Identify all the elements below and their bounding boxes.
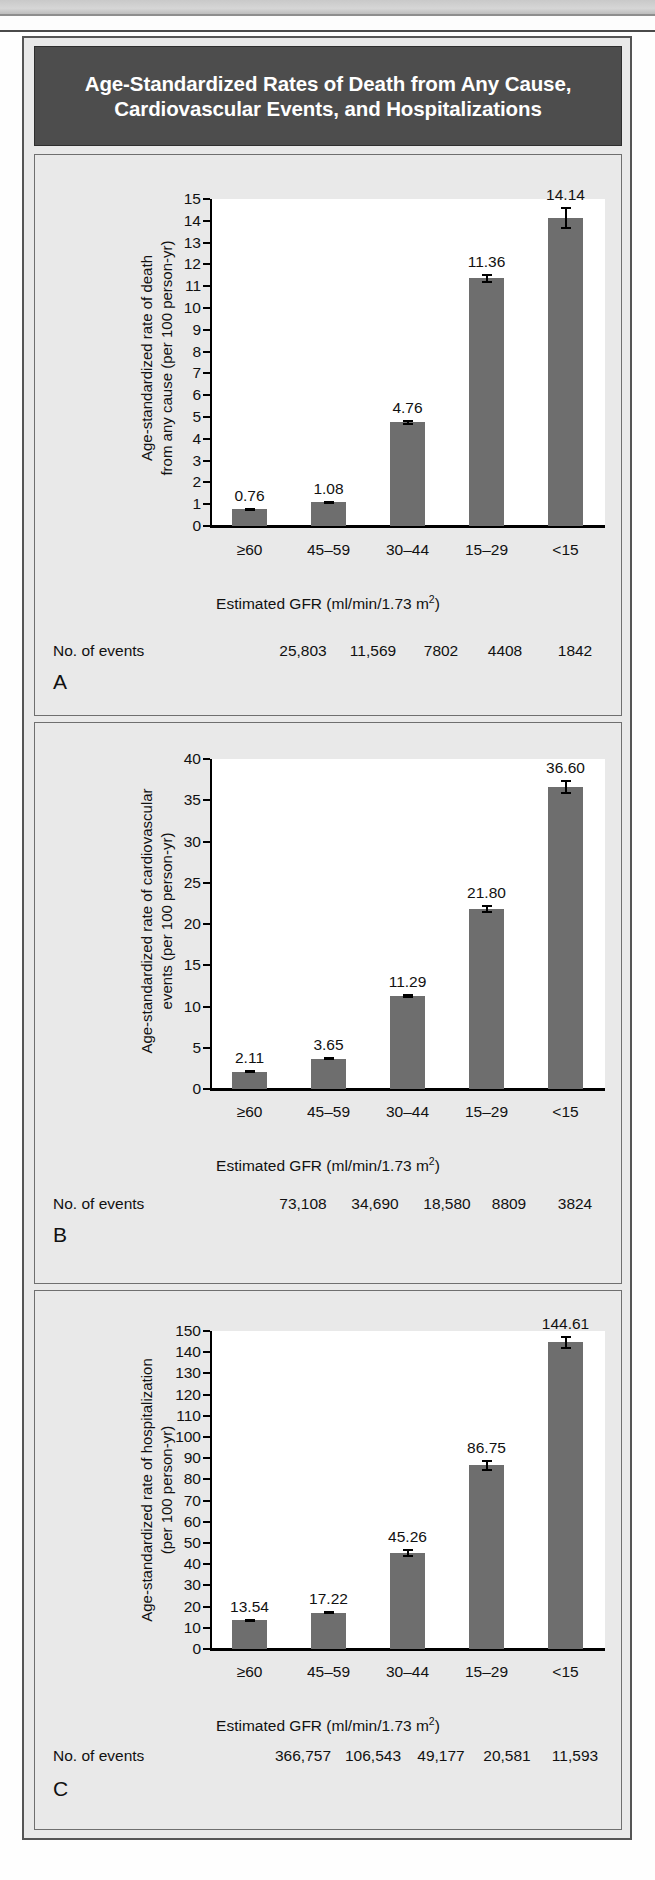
x-category-label: 45–59 — [307, 1663, 350, 1681]
bar — [390, 422, 425, 526]
error-bar-cap — [245, 1620, 255, 1622]
y-tick — [203, 758, 210, 760]
error-bar-cap — [482, 1469, 492, 1471]
y-tick-label: 30 — [184, 1576, 201, 1594]
x-axis-title-tail: ) — [435, 1157, 440, 1174]
chart-c: Age-standardized rate of hospitalization… — [35, 1291, 621, 1829]
y-axis-label-line2: (per 100 person-yr) — [157, 1327, 176, 1653]
error-bar-cap — [561, 1336, 571, 1338]
y-tick-label: 15 — [184, 956, 201, 974]
y-axis-line — [210, 1331, 212, 1649]
plot-area: 01234567891011121314150.761.084.7611.361… — [210, 199, 605, 526]
y-tick — [203, 460, 210, 462]
bar-value-label: 11.29 — [389, 973, 427, 991]
y-tick — [203, 1351, 210, 1353]
error-bar-cap — [324, 1612, 334, 1614]
y-axis-line — [210, 759, 212, 1089]
y-tick — [203, 525, 210, 527]
y-tick — [203, 503, 210, 505]
y-tick-label: 12 — [184, 255, 201, 273]
y-tick-label: 1 — [192, 495, 201, 513]
y-tick-label: 13 — [184, 234, 201, 252]
x-axis-title-tail: ) — [435, 1717, 440, 1734]
y-tick — [203, 1563, 210, 1565]
events-count: 18,580 — [423, 1195, 470, 1213]
error-bar-cap — [561, 207, 571, 209]
y-tick — [203, 1457, 210, 1459]
x-axis-title-main: Estimated GFR (ml/min/1.73 m — [216, 1157, 429, 1174]
y-tick-label: 10 — [184, 299, 201, 317]
error-bar-cap — [561, 780, 571, 782]
y-tick-label: 70 — [184, 1492, 201, 1510]
y-tick-label: 3 — [192, 452, 201, 470]
x-category-label: 15–29 — [465, 1663, 508, 1681]
events-count: 49,177 — [417, 1747, 464, 1765]
figure-page: Age-Standardized Rates of Death from Any… — [0, 0, 655, 1880]
y-tick-label: 90 — [184, 1449, 201, 1467]
y-tick — [203, 1047, 210, 1049]
error-bar-cap — [482, 911, 492, 913]
y-tick — [203, 1521, 210, 1523]
events-count: 7802 — [424, 642, 458, 660]
bar-value-label: 4.76 — [392, 399, 422, 417]
bar — [232, 1620, 267, 1649]
y-tick — [203, 481, 210, 483]
y-tick — [203, 351, 210, 353]
error-bar-cap — [482, 905, 492, 907]
y-tick — [203, 198, 210, 200]
events-count: 106,543 — [345, 1747, 401, 1765]
bar — [548, 787, 583, 1089]
y-tick-label: 150 — [175, 1322, 201, 1340]
y-tick — [203, 372, 210, 374]
error-bar-cap — [245, 1071, 255, 1073]
x-axis-title: Estimated GFR (ml/min/1.73 m2) — [35, 1155, 621, 1175]
y-tick — [203, 307, 210, 309]
bar — [548, 1342, 583, 1649]
x-category-label: 45–59 — [307, 541, 350, 559]
events-count: 34,690 — [351, 1195, 398, 1213]
x-category-label: ≥60 — [237, 1663, 263, 1681]
y-tick-label: 80 — [184, 1470, 201, 1488]
y-tick-label: 0 — [192, 1080, 201, 1098]
y-tick — [203, 882, 210, 884]
error-bar — [565, 207, 567, 229]
x-category-label: <15 — [552, 1103, 578, 1121]
y-tick — [203, 799, 210, 801]
y-tick-label: 5 — [192, 408, 201, 426]
y-axis-label-line1: Age-standardized rate of hospitalization — [137, 1327, 156, 1653]
bar — [469, 909, 504, 1089]
y-tick-label: 14 — [184, 212, 201, 230]
events-count: 366,757 — [275, 1747, 331, 1765]
y-tick — [203, 1006, 210, 1008]
y-tick-label: 11 — [185, 277, 201, 295]
y-tick-label: 10 — [184, 1619, 201, 1637]
y-tick — [203, 1415, 210, 1417]
y-tick — [203, 285, 210, 287]
bar-value-label: 13.54 — [230, 1598, 269, 1616]
panel-letter: B — [53, 1223, 67, 1247]
bar — [469, 1465, 504, 1649]
error-bar-cap — [403, 1549, 413, 1551]
error-bar-cap — [403, 996, 413, 998]
x-category-label: ≥60 — [237, 1103, 263, 1121]
error-bar-cap — [324, 502, 334, 504]
figure-container: Age-Standardized Rates of Death from Any… — [22, 36, 632, 1840]
y-axis-label-line1: Age-standardized rate of cardiovascular — [137, 753, 156, 1089]
y-tick-label: 20 — [184, 915, 201, 933]
bar — [390, 1553, 425, 1649]
y-axis-label-line1: Age-standardized rate of death — [137, 193, 156, 523]
y-tick-label: 60 — [184, 1513, 201, 1531]
plot-area: 010203040506070809010011012013014015013.… — [210, 1331, 605, 1649]
bar-value-label: 14.14 — [546, 186, 585, 204]
y-tick-label: 9 — [192, 321, 201, 339]
error-bar-cap — [403, 423, 413, 425]
bar-value-label: 45.26 — [388, 1528, 427, 1546]
error-bar-cap — [245, 509, 255, 511]
bar — [390, 996, 425, 1089]
y-tick — [203, 329, 210, 331]
x-axis-title-main: Estimated GFR (ml/min/1.73 m — [216, 1717, 429, 1734]
y-tick-label: 6 — [192, 386, 201, 404]
y-tick-label: 130 — [175, 1364, 201, 1382]
y-tick-label: 10 — [184, 998, 201, 1016]
bar — [548, 218, 583, 526]
